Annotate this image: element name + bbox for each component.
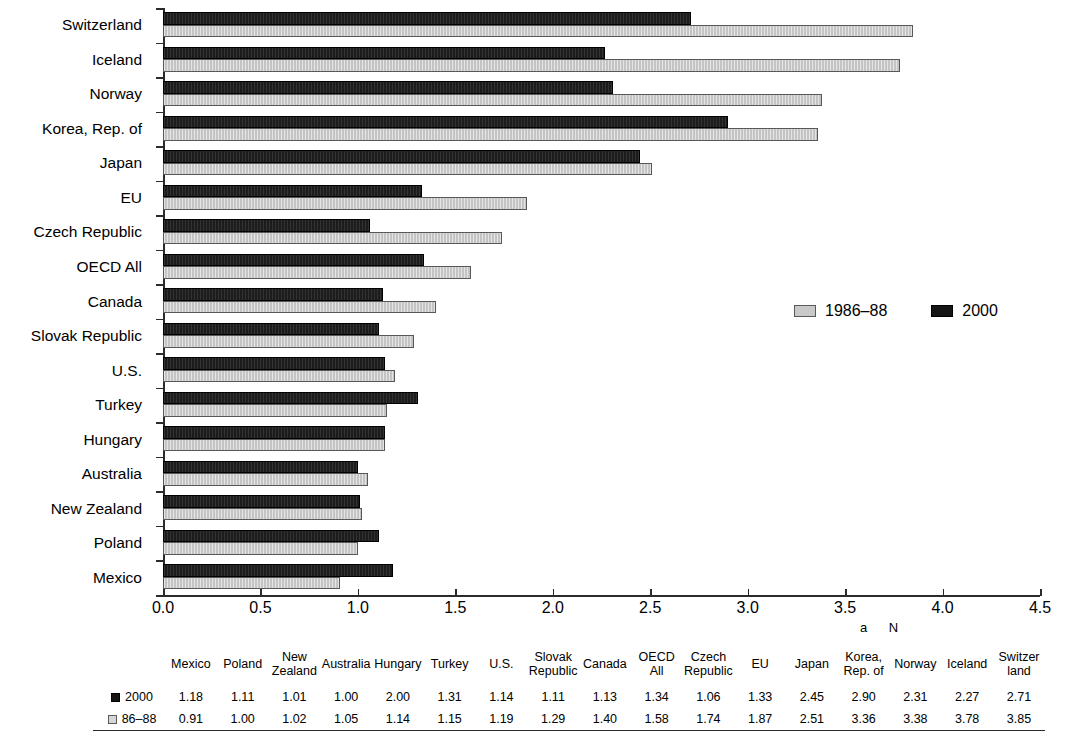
x-axis-tick-label: 2.5 xyxy=(639,600,661,616)
x-axis-tick xyxy=(748,589,750,596)
bar-2000 xyxy=(163,357,385,370)
legend-swatch-1986-88 xyxy=(794,305,816,317)
category-label: Turkey xyxy=(95,397,142,413)
table-column-header: Canada xyxy=(579,644,631,684)
y-axis-tick xyxy=(156,491,163,493)
bar-1986-88 xyxy=(163,370,395,383)
footnote-mark-a: a xyxy=(860,620,867,635)
table-row-label: 86–88 xyxy=(93,708,165,731)
table-cell: 2.90 xyxy=(838,684,890,708)
table-column-header: Korea, Rep. of xyxy=(838,644,890,684)
table-row-label-text: 86–88 xyxy=(122,712,157,726)
bar-1986-88 xyxy=(163,508,362,521)
table-cell: 2.27 xyxy=(941,684,993,708)
y-axis-tick xyxy=(156,146,163,148)
y-axis-tick xyxy=(156,181,163,183)
table-row: 86–880.911.001.021.051.141.151.191.291.4… xyxy=(93,708,1045,731)
y-axis-tick xyxy=(156,284,163,286)
table-column-header: Hungary xyxy=(372,644,424,684)
table-cell: 1.15 xyxy=(424,708,476,731)
x-axis-tick xyxy=(358,589,360,596)
chart-legend: 1986–88 2000 xyxy=(794,300,998,322)
category-label: Japan xyxy=(100,156,142,172)
x-axis-tick xyxy=(1040,589,1042,596)
table-row-swatch-icon xyxy=(108,715,117,724)
footnote-mark-n: N xyxy=(889,620,898,635)
table-cell: 1.11 xyxy=(527,684,579,708)
table-cell: 1.13 xyxy=(579,684,631,708)
bar-1986-88 xyxy=(163,542,358,555)
x-axis-tick-label: 2.0 xyxy=(542,600,564,616)
bar-1986-88 xyxy=(163,404,387,417)
bar-2000 xyxy=(163,150,640,163)
table-cell: 2.51 xyxy=(786,708,838,731)
table-cell: 1.06 xyxy=(683,684,735,708)
y-axis-tick xyxy=(156,250,163,252)
table-column-header: U.S. xyxy=(476,644,528,684)
table-cell: 3.78 xyxy=(941,708,993,731)
x-axis-tick-label: 0.0 xyxy=(152,600,174,616)
legend-label-2000: 2000 xyxy=(962,302,998,320)
table-cell: 1.19 xyxy=(476,708,528,731)
category-label: Mexico xyxy=(93,570,142,586)
table-column-header: Poland xyxy=(217,644,269,684)
category-label: EU xyxy=(120,190,142,206)
bar-1986-88 xyxy=(163,197,527,210)
x-axis-tick xyxy=(455,589,457,596)
table-column-header: Slovak Republic xyxy=(527,644,579,684)
y-axis-tick xyxy=(156,595,163,597)
table-column-header: Australia xyxy=(320,644,372,684)
bar-1986-88 xyxy=(163,232,502,245)
table-cell: 0.91 xyxy=(165,708,217,731)
y-axis-tick xyxy=(156,43,163,45)
bar-1986-88 xyxy=(163,25,913,38)
table-cell: 1.40 xyxy=(579,708,631,731)
bar-2000 xyxy=(163,392,418,405)
category-label: Czech Republic xyxy=(33,225,142,241)
table-cell: 3.85 xyxy=(993,708,1045,731)
table-column-header: EU xyxy=(734,644,786,684)
table-column-header: Norway xyxy=(890,644,942,684)
data-table: MexicoPolandNew ZealandAustraliaHungaryT… xyxy=(93,644,1045,731)
table-column-header: Czech Republic xyxy=(683,644,735,684)
table-column-header: Switzer land xyxy=(993,644,1045,684)
x-axis-tick xyxy=(943,589,945,596)
category-label: Korea, Rep. of xyxy=(42,121,142,137)
table-column-header: Turkey xyxy=(424,644,476,684)
table-cell: 2.00 xyxy=(372,684,424,708)
category-label: U.S. xyxy=(112,363,142,379)
table-row: 20001.181.111.011.002.001.311.141.111.13… xyxy=(93,684,1045,708)
bar-2000 xyxy=(163,81,613,94)
bar-2000 xyxy=(163,323,379,336)
category-label: Slovak Republic xyxy=(31,328,142,344)
table-row-label: 2000 xyxy=(93,684,165,708)
bar-1986-88 xyxy=(163,473,368,486)
bar-1986-88 xyxy=(163,335,414,348)
x-axis-tick-label: 4.5 xyxy=(1029,600,1051,616)
bar-1986-88 xyxy=(163,59,900,72)
x-axis-tick-label: 4.0 xyxy=(931,600,953,616)
table-row-label-text: 2000 xyxy=(125,690,153,704)
x-axis-tick-label: 0.5 xyxy=(249,600,271,616)
y-axis-tick xyxy=(156,319,163,321)
table-cell: 1.29 xyxy=(527,708,579,731)
category-label: Poland xyxy=(94,535,142,551)
data-table-wrapper: MexicoPolandNew ZealandAustraliaHungaryT… xyxy=(93,644,1045,731)
bar-2000 xyxy=(163,219,370,232)
x-axis-tick xyxy=(650,589,652,596)
y-axis-tick xyxy=(156,457,163,459)
y-axis-tick xyxy=(156,526,163,528)
bar-1986-88 xyxy=(163,266,471,279)
category-label: Iceland xyxy=(92,52,142,68)
table-header-row: MexicoPolandNew ZealandAustraliaHungaryT… xyxy=(93,644,1045,684)
table-row-swatch-icon xyxy=(111,693,120,702)
category-axis-labels: SwitzerlandIcelandNorwayKorea, Rep. ofJa… xyxy=(0,0,152,596)
table-cell: 1.00 xyxy=(320,684,372,708)
y-axis-tick xyxy=(156,422,163,424)
y-axis-tick xyxy=(156,77,163,79)
table-column-header: OECD All xyxy=(631,644,683,684)
table-cell: 1.05 xyxy=(320,708,372,731)
category-label: Canada xyxy=(88,294,142,310)
table-corner-cell xyxy=(93,644,165,684)
bar-1986-88 xyxy=(163,128,818,141)
